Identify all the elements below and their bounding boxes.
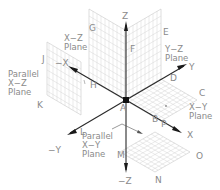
leader-arrowhead-icon <box>137 130 143 134</box>
x-arrowhead-icon <box>172 126 182 133</box>
point-label-n: N <box>155 175 162 185</box>
point-label-k: K <box>37 100 44 110</box>
point-label-o: O <box>196 151 203 161</box>
point-label-h: H <box>90 80 97 90</box>
point-label-e: E <box>163 27 169 37</box>
h-tick-mark <box>84 80 85 84</box>
parallel-xy-plane-label: Parallel X−Y Plane <box>82 131 113 159</box>
point-label-p: P <box>161 119 167 129</box>
xz-plane-label: X−Z Plane <box>64 33 87 52</box>
z-axis-label: Z <box>122 11 128 21</box>
point-label-d: D <box>170 73 177 83</box>
point-label-b: B <box>152 114 158 124</box>
neg-y-axis-label: −Y <box>48 145 62 155</box>
xy-plane-grid <box>125 79 197 121</box>
point-label-g: G <box>89 23 96 33</box>
svg-text:Plane: Plane <box>64 42 87 52</box>
point-label-c: C <box>199 88 205 98</box>
x-axis-negative <box>71 68 126 100</box>
neg-z-axis-label: −Z <box>118 176 132 186</box>
y-axis-label: Y <box>188 62 195 72</box>
x-axis-label: X <box>187 130 193 140</box>
neg-x-axis-label: −X <box>55 58 69 68</box>
xy-plane-label: X−Y Plane <box>189 102 212 121</box>
yz-plane-label: Y−Z Plane <box>164 44 188 63</box>
xy-plane-marker <box>165 105 167 107</box>
svg-text:Plane: Plane <box>165 53 188 63</box>
parallel-xy-plane-grid <box>120 132 190 172</box>
isometric-axes-diagram: Z −Z Y X −X −Y B A B P C D E F G H J K L… <box>0 0 220 190</box>
point-label-m: M <box>117 150 125 160</box>
svg-text:Plane: Plane <box>8 87 31 97</box>
point-label-j: J <box>41 54 45 64</box>
z-arrowhead-icon <box>124 21 128 31</box>
y-axis-negative <box>70 100 126 133</box>
svg-text:Plane: Plane <box>189 111 212 121</box>
parallel-xz-plane-grid <box>47 42 81 115</box>
y-axis-positive <box>126 66 184 100</box>
svg-text:Plane: Plane <box>82 149 105 159</box>
origin-label: A <box>120 103 127 113</box>
neg-z-arrowhead-icon <box>124 163 128 173</box>
point-label-f: F <box>130 44 135 54</box>
parallel-xz-plane-label: Parallel X−Z Plane <box>8 69 39 97</box>
